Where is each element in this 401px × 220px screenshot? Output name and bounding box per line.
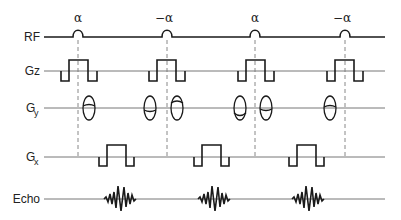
- row-label-gx-subscript: x: [34, 157, 39, 167]
- flip-angle-3: α: [251, 11, 259, 25]
- flip-angle-2: −α: [155, 11, 173, 25]
- gy-lobe-3-inner: [171, 101, 183, 103]
- pulse-sequence-diagram: RF Gz G y G x Echo α −α α −α: [0, 0, 401, 220]
- rf-waveform: [44, 30, 385, 37]
- gy-lobe-1-inner: [83, 105, 95, 107]
- gy-lobe-5-inner: [260, 109, 272, 111]
- gx-pulse-2: [194, 145, 229, 166]
- row-label-gy: G y: [26, 101, 39, 118]
- gy-lobe-6-inner: [324, 106, 336, 108]
- gy-lobe-2-inner: [144, 110, 156, 112]
- timing-markers: [78, 40, 345, 157]
- row-label-gx: G x: [26, 150, 39, 167]
- flip-angle-4: −α: [333, 11, 351, 25]
- row-label-gz: Gz: [25, 64, 40, 78]
- flip-angle-1: α: [74, 11, 82, 25]
- gx-pulse-1: [99, 145, 134, 166]
- echo-signal-1: [104, 186, 136, 211]
- row-label-gy-subscript: y: [34, 108, 39, 118]
- echo-signal-3: [292, 186, 324, 211]
- gx-pulse-3: [289, 145, 324, 166]
- row-label-echo: Echo: [13, 192, 41, 206]
- row-label-rf: RF: [24, 30, 40, 44]
- gx-waveform: [99, 145, 324, 166]
- echo-signal-2: [198, 186, 230, 211]
